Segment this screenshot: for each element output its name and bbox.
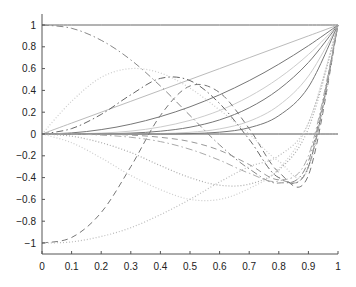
x-tick-label: 0.7 (242, 261, 256, 272)
x-tick-label: 1 (335, 261, 341, 272)
series-power-1 (42, 25, 338, 134)
y-tick-label: 0.4 (22, 85, 36, 96)
x-tick-label: 0.6 (213, 261, 227, 272)
y-tick-label: −0.2 (16, 150, 36, 161)
x-tick-label: 0 (39, 261, 45, 272)
y-tick-label: −0.6 (16, 194, 36, 205)
x-tick-label: 0.2 (94, 261, 108, 272)
plot-area (42, 25, 338, 243)
x-tick-label: 0.1 (65, 261, 79, 272)
x-tick-label: 0.4 (153, 261, 167, 272)
x-tick-label: 0.9 (301, 261, 315, 272)
y-tick-label: 0.2 (22, 107, 36, 118)
y-tick-label: 0 (30, 129, 36, 140)
y-tick-label: −0.8 (16, 216, 36, 227)
y-tick-label: 1 (30, 20, 36, 31)
x-tick-label: 0.3 (124, 261, 138, 272)
series-dotted-hump (42, 25, 338, 178)
y-tick-label: 0.6 (22, 63, 36, 74)
series-dotted-descending (42, 25, 338, 201)
x-tick-label: 0.5 (183, 261, 197, 272)
y-tick-label: −0.4 (16, 172, 36, 183)
series-dotted-valley (42, 25, 338, 186)
y-tick-labels: 10.80.60.40.20−0.2−0.4−0.6−0.8−1 (16, 20, 45, 249)
x-tick-label: 0.8 (272, 261, 286, 272)
y-tick-label: −1 (25, 238, 37, 249)
y-tick-label: 0.8 (22, 41, 36, 52)
line-chart: 10.80.60.40.20−0.2−0.4−0.6−0.8−1 00.10.2… (0, 0, 356, 287)
series-dashdot-steep (42, 25, 338, 182)
